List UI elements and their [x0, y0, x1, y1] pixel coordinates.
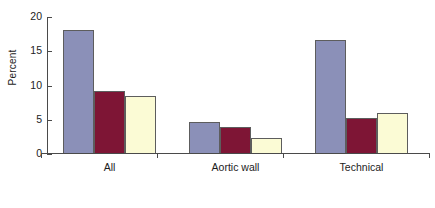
bar [125, 96, 156, 154]
bar [315, 40, 346, 154]
y-axis-tick: 20 [0, 17, 54, 18]
bar [251, 138, 282, 154]
y-axis-tick: 0 [0, 154, 54, 155]
y-axis-tick-label: 20 [12, 10, 42, 22]
y-axis-tick: 10 [0, 86, 54, 87]
y-axis-tick-label: 10 [12, 79, 42, 91]
y-axis-tick: 5 [0, 120, 54, 121]
x-axis-category-label: All [104, 161, 116, 173]
bar [189, 122, 220, 154]
y-axis-tick-label: 0 [12, 147, 42, 159]
x-axis-line [41, 153, 430, 154]
x-axis-tick-mark [283, 153, 284, 158]
y-axis-tick-label: 15 [12, 44, 42, 56]
y-axis-tick: 15 [0, 51, 54, 52]
x-axis-category-label: Aortic wall [212, 161, 260, 173]
y-axis-tick-label: 5 [12, 113, 42, 125]
y-axis-tick-mark [47, 154, 52, 155]
bar [63, 30, 94, 154]
bar [94, 91, 125, 154]
x-axis-tick-mark [157, 153, 158, 158]
x-axis-tick-mark [429, 153, 430, 158]
x-axis-category-label: Technical [340, 161, 384, 173]
bar-chart: Percent 05101520 AllAortic wallTechnical [0, 0, 435, 208]
y-axis-title: Percent [7, 33, 18, 103]
bar [220, 127, 251, 154]
x-axis-tick-mark [41, 153, 42, 158]
bar [377, 113, 408, 154]
plot-area [47, 17, 430, 154]
bar [346, 118, 377, 154]
